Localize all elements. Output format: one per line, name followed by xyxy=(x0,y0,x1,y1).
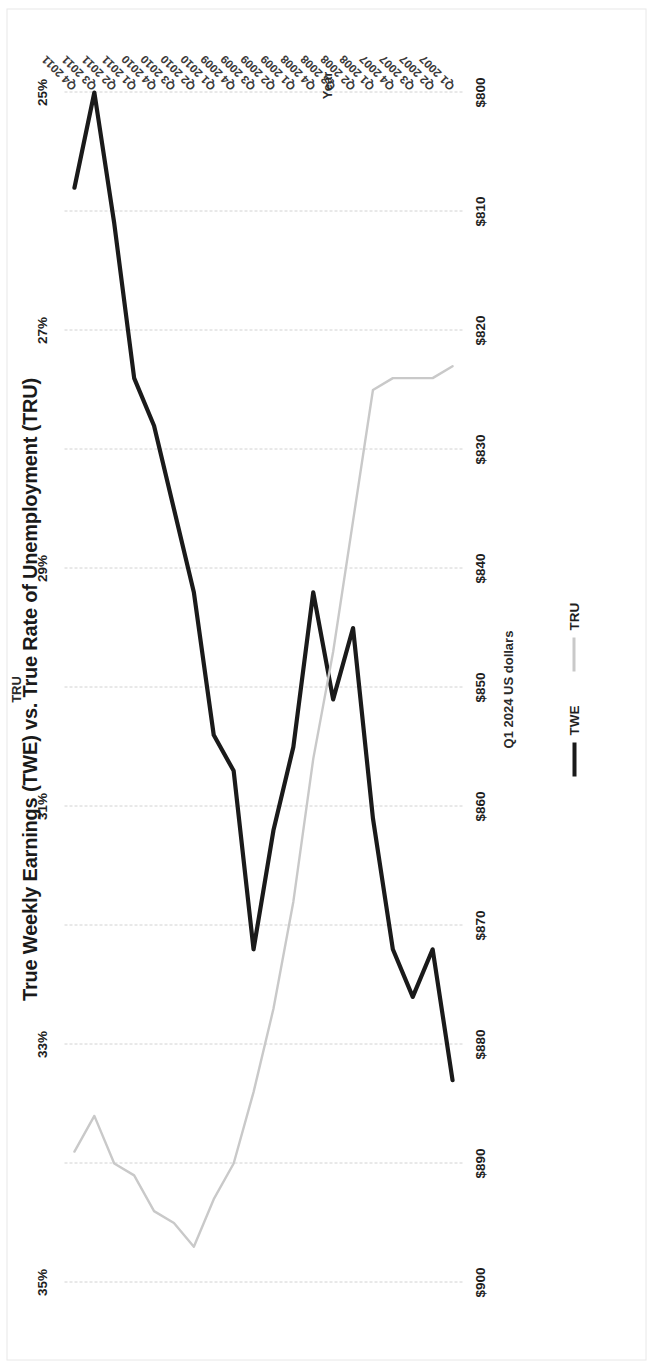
primary-axis-tick: $890 xyxy=(472,1148,487,1178)
legend-item-tru: TRU xyxy=(566,602,581,671)
legend-line-tru-icon xyxy=(572,637,575,671)
category-axis: Q1 2007Q2 2007Q3 2007Q4 2007Q1 2008Q2 20… xyxy=(64,0,462,90)
secondary-axis-tick: 35% xyxy=(34,1268,49,1295)
legend-label-tru: TRU xyxy=(566,602,581,630)
chart-legend: TWE TRU xyxy=(566,12,581,1366)
primary-axis-tick: $810 xyxy=(472,196,487,226)
legend-label-twe: TWE xyxy=(566,705,581,735)
series-layer xyxy=(64,92,462,1282)
primary-axis-tick: $880 xyxy=(472,1029,487,1059)
series-line-twe xyxy=(74,92,452,1080)
primary-axis-tick: $850 xyxy=(472,672,487,702)
primary-axis-tick: $860 xyxy=(472,791,487,821)
primary-axis-tick: $830 xyxy=(472,434,487,464)
series-line-tru xyxy=(74,366,452,1247)
secondary-axis-tick: 25% xyxy=(34,78,49,105)
secondary-value-axis: 25%27%29%31%33%35% xyxy=(34,12,64,1366)
plot-inner xyxy=(64,92,462,1282)
primary-axis-tick: $870 xyxy=(472,910,487,940)
legend-item-twe: TWE xyxy=(566,705,581,776)
primary-axis-tick: $800 xyxy=(472,77,487,107)
legend-line-twe-icon xyxy=(572,742,576,776)
plot-area xyxy=(64,92,462,1282)
rotated-chart-canvas: True Weekly Earnings (TWE) vs. True Rate… xyxy=(0,0,653,1366)
primary-axis-title: Q1 2024 US dollars xyxy=(500,12,515,1366)
primary-axis-tick: $900 xyxy=(472,1267,487,1297)
secondary-axis-tick: 27% xyxy=(34,316,49,343)
secondary-axis-tick: 31% xyxy=(34,792,49,819)
secondary-axis-tick: 29% xyxy=(34,554,49,581)
secondary-axis-tick: 33% xyxy=(34,1030,49,1057)
primary-axis-tick: $840 xyxy=(472,553,487,583)
primary-axis-tick: $820 xyxy=(472,315,487,345)
chart-page: True Weekly Earnings (TWE) vs. True Rate… xyxy=(0,0,653,1366)
secondary-axis-title: TRU xyxy=(8,12,23,1366)
